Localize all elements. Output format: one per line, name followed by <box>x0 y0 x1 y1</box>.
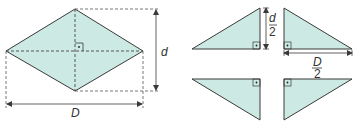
svg-text:d: d <box>269 11 276 25</box>
rhombus: d D <box>6 9 168 120</box>
triangle-bottom-right <box>284 79 352 120</box>
rhombus-area-diagram: d D d 2 D 2 <box>0 0 353 121</box>
svg-text:2: 2 <box>269 25 276 39</box>
label-d: d <box>161 45 168 59</box>
triangle-top-right <box>284 8 352 49</box>
svg-text:2: 2 <box>314 67 321 81</box>
triangle-top-left <box>192 8 260 49</box>
triangle-bottom-left <box>192 79 260 120</box>
label-D: D <box>71 106 80 120</box>
label-half-D: D 2 <box>312 55 322 81</box>
label-half-d: d 2 <box>269 11 277 39</box>
